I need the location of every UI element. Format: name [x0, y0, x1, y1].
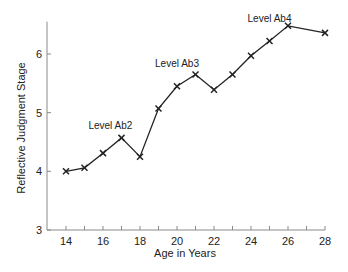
x-tick-label: 16: [97, 235, 109, 247]
annotation-label: Level Ab2: [88, 120, 132, 131]
series-line: [66, 26, 325, 172]
x-tick-label: 18: [134, 235, 146, 247]
x-marker-icon: [100, 150, 106, 156]
x-marker-icon: [193, 72, 199, 78]
y-tick-label: 4: [36, 165, 42, 177]
x-tick-label: 20: [171, 235, 183, 247]
x-tick-label: 28: [319, 235, 331, 247]
x-tick-label: 24: [245, 235, 257, 247]
x-axis: 1416182022242628: [47, 226, 331, 247]
y-axis-label: Reflective Judgment Stage: [15, 62, 27, 193]
x-tick-label: 26: [282, 235, 294, 247]
x-marker-icon: [211, 87, 217, 93]
x-marker-icon: [230, 72, 236, 78]
annotations: Level Ab2Level Ab3Level Ab4: [88, 13, 291, 131]
x-axis-label: Age in Years: [154, 247, 216, 259]
y-tick-label: 5: [36, 107, 42, 119]
annotation-label: Level Ab3: [155, 58, 199, 69]
x-tick-label: 22: [208, 235, 220, 247]
data-series: [63, 23, 328, 175]
annotation-label: Level Ab4: [248, 13, 292, 24]
y-tick-label: 3: [36, 224, 42, 236]
x-marker-icon: [248, 53, 254, 59]
x-marker-icon: [174, 83, 180, 89]
x-marker-icon: [156, 106, 162, 112]
y-tick-label: 6: [36, 48, 42, 60]
y-axis: 3456: [36, 22, 51, 236]
x-tick-label: 14: [60, 235, 72, 247]
x-marker-icon: [267, 38, 273, 44]
line-chart: 3456 1416182022242628 Level Ab2Level Ab3…: [0, 0, 348, 272]
x-marker-icon: [119, 135, 125, 141]
x-marker-icon: [137, 154, 143, 160]
